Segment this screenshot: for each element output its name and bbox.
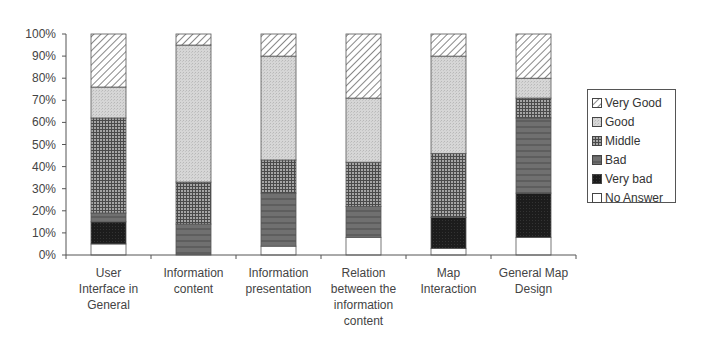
- x-category-label: General Map Design: [489, 265, 579, 297]
- y-axis: [62, 34, 66, 255]
- legend: Very Good Good Middle Bad Very bad No An…: [587, 89, 676, 203]
- bar-segment-very-good: [516, 34, 551, 78]
- x-category-label: Relation between the information content: [319, 265, 409, 329]
- legend-label: No Answer: [605, 191, 663, 205]
- diagonal-hatch-swatch-icon: [592, 98, 602, 108]
- legend-item-very-bad: Very bad: [592, 169, 675, 188]
- y-tick-label: 70%: [0, 94, 56, 106]
- legend-label: Middle: [605, 134, 640, 148]
- x-category-label: Information content: [149, 265, 239, 297]
- x-category-label: User Interface in General: [64, 265, 154, 313]
- bar-segment-middle: [346, 162, 381, 206]
- legend-label: Very Good: [605, 96, 662, 110]
- stacked-bar: [176, 34, 211, 255]
- legend-label: Bad: [605, 153, 626, 167]
- bar-segment-no-answer: [261, 246, 296, 255]
- bar-segment-very-good: [261, 34, 296, 56]
- grid-swatch-icon: [592, 136, 602, 146]
- y-tick-label: 0%: [0, 249, 56, 261]
- bars-group: [91, 34, 551, 255]
- bar-segment-middle: [91, 118, 126, 213]
- legend-label: Good: [605, 115, 634, 129]
- bar-segment-good: [346, 98, 381, 162]
- y-tick-label: 60%: [0, 116, 56, 128]
- legend-item-bad: Bad: [592, 150, 675, 169]
- bar-segment-very-bad: [431, 217, 466, 248]
- bar-segment-bad: [91, 213, 126, 222]
- stacked-bar: [431, 34, 466, 255]
- legend-label: Very bad: [605, 172, 652, 186]
- legend-item-very-good: Very Good: [592, 93, 675, 112]
- stacked-bar: [261, 34, 296, 255]
- x-category-label: Information presentation: [234, 265, 324, 297]
- bar-segment-very-good: [91, 34, 126, 87]
- bar-segment-good: [176, 45, 211, 182]
- x-axis: [66, 255, 576, 259]
- bar-segment-bad: [346, 206, 381, 237]
- y-tick-label: 90%: [0, 50, 56, 62]
- bar-segment-middle: [176, 182, 211, 224]
- bar-segment-good: [91, 87, 126, 118]
- dark-gray-swatch-icon: [592, 155, 602, 165]
- white-swatch-icon: [592, 193, 602, 203]
- y-tick-label: 100%: [0, 28, 56, 40]
- y-tick-label: 80%: [0, 72, 56, 84]
- bar-segment-very-bad: [516, 193, 551, 237]
- black-swatch-icon: [592, 174, 602, 184]
- bar-segment-no-answer: [516, 237, 551, 255]
- bar-segment-no-answer: [91, 244, 126, 255]
- bar-segment-very-good: [176, 34, 211, 45]
- bar-segment-bad: [176, 224, 211, 255]
- y-tick-label: 10%: [0, 227, 56, 239]
- light-dots-swatch-icon: [592, 117, 602, 127]
- bar-segment-middle: [516, 98, 551, 118]
- bar-segment-very-good: [431, 34, 466, 56]
- y-tick-label: 30%: [0, 183, 56, 195]
- bar-segment-very-good: [346, 34, 381, 98]
- bar-segment-good: [261, 56, 296, 160]
- x-category-label: Map Interaction: [404, 265, 494, 297]
- stacked-bar: [91, 34, 126, 255]
- bar-segment-good: [431, 56, 466, 153]
- y-tick-label: 40%: [0, 161, 56, 173]
- y-tick-label: 20%: [0, 205, 56, 217]
- bar-segment-very-bad: [91, 222, 126, 244]
- bar-segment-no-answer: [431, 248, 466, 255]
- bar-segment-bad: [261, 193, 296, 246]
- bar-segment-bad: [516, 118, 551, 193]
- y-tick-label: 50%: [0, 139, 56, 151]
- stacked-bar: [346, 34, 381, 255]
- legend-item-no-answer: No Answer: [592, 188, 675, 207]
- legend-item-good: Good: [592, 112, 675, 131]
- legend-item-middle: Middle: [592, 131, 675, 150]
- stacked-bar: [516, 34, 551, 255]
- bar-segment-no-answer: [346, 237, 381, 255]
- bar-segment-good: [516, 78, 551, 98]
- bar-segment-middle: [261, 160, 296, 193]
- bar-segment-middle: [431, 153, 466, 217]
